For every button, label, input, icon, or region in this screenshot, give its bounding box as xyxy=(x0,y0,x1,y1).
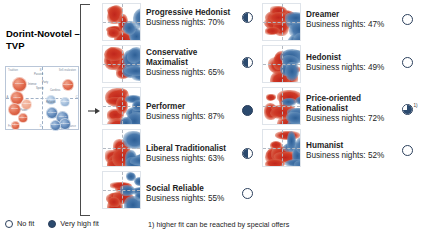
fit-indicator-half[interactable] xyxy=(242,148,253,159)
segment-entry: Social ReliableBusiness nights: 55% xyxy=(146,184,224,204)
segment-business-nights: Business nights: 87% xyxy=(146,112,224,122)
footnote-text: 1) higher fit can be reached by special … xyxy=(148,220,289,229)
segment-business-nights: Business nights: 72% xyxy=(306,114,384,124)
segment-entry: Price-oriented RationalistBusiness night… xyxy=(306,94,384,125)
segment-entry: PerformerBusiness nights: 87% xyxy=(146,102,224,122)
segment-heatmap xyxy=(102,171,141,209)
heatmap-blob-blue xyxy=(295,96,301,105)
segment-heatmap xyxy=(102,129,141,167)
fit-indicator-none[interactable] xyxy=(242,188,253,199)
fit-indicator-half[interactable] xyxy=(242,12,253,23)
heatmap-blob-blue xyxy=(124,196,141,209)
segment-name: Price-oriented Rationalist xyxy=(306,94,376,114)
segment-business-nights: Business nights: 49% xyxy=(306,63,384,73)
segment-name: Humanist xyxy=(306,141,384,151)
segment-heatmap xyxy=(262,129,301,167)
mini-positioning-chart: Tradition B Self-realization A C Frugal … xyxy=(5,66,79,130)
slide-root: Dorint-Novotel – TVP Tradition B Self-re… xyxy=(0,0,425,235)
fit-indicator-none[interactable] xyxy=(402,57,413,68)
fit-indicator-none[interactable] xyxy=(402,145,413,156)
chart-text-marker: Relaxed xyxy=(46,101,56,104)
segment-name: Performer xyxy=(146,102,224,112)
segment-heatmap xyxy=(262,45,301,83)
fit-indicator-full[interactable] xyxy=(242,105,253,116)
segment-heatmap xyxy=(262,3,301,41)
segment-entry: Conservative MaximalistBusiness nights: … xyxy=(146,48,224,79)
axis-label-top-mid: B xyxy=(40,69,42,72)
heatmap-blob-blue xyxy=(133,8,141,28)
chart-text-marker: Power xyxy=(20,109,27,112)
chart-text-marker: Sporty xyxy=(36,87,44,90)
chart-bubble: Modern xyxy=(18,113,28,123)
chart-bubble: Dreamer xyxy=(62,79,74,91)
footnote-marker: 1) xyxy=(414,103,418,108)
chart-text-marker: Passive xyxy=(34,73,43,76)
heatmap-blob-blue xyxy=(123,131,141,149)
segment-business-nights: Business nights: 70% xyxy=(146,18,230,28)
heatmap-axis-horizontal xyxy=(263,64,300,65)
chart-text-marker: Intense xyxy=(28,83,37,86)
segment-entry: HumanistBusiness nights: 52% xyxy=(306,141,384,161)
fit-indicator-three-quarter[interactable] xyxy=(402,104,413,115)
heatmap-blob-red xyxy=(107,5,122,23)
segment-name: Progressive Hedonist xyxy=(146,8,230,18)
axis-label-mid-right: C xyxy=(76,96,78,99)
segment-heatmap xyxy=(102,3,141,41)
axis-label-top-right: Self-realization xyxy=(59,69,76,72)
chart-bubble: Progres xyxy=(60,97,70,107)
legend-label-very-high-fit: Very high fit xyxy=(60,219,99,228)
no-fit-circle-icon xyxy=(5,220,13,228)
heatmap-blob-blue xyxy=(294,160,301,167)
segment-heatmap xyxy=(102,87,141,125)
segment-business-nights: Business nights: 47% xyxy=(306,20,384,30)
legend-item-no-fit: No fit xyxy=(5,219,34,228)
heatmap-axis-horizontal xyxy=(103,22,140,23)
segment-name: Dreamer xyxy=(306,10,384,20)
fit-fill xyxy=(243,13,248,22)
heatmap-blob-red xyxy=(107,28,119,38)
segment-business-nights: Business nights: 55% xyxy=(146,194,224,204)
segment-entry: HedonistBusiness nights: 49% xyxy=(306,53,384,73)
segment-business-nights: Business nights: 63% xyxy=(146,154,226,164)
axis-label-top-left: Tradition xyxy=(8,69,18,72)
heatmap-blob-blue xyxy=(286,112,301,125)
segment-business-nights: Business nights: 52% xyxy=(306,151,384,161)
flow-arrow-icon xyxy=(88,106,100,116)
segment-name: Liberal Traditionalist xyxy=(146,144,226,154)
heatmap-axis-horizontal xyxy=(103,106,140,107)
segment-entry: DreamerBusiness nights: 47% xyxy=(306,10,384,30)
chart-bubble: Conserv xyxy=(12,77,27,92)
very-high-fit-circle-icon xyxy=(48,220,56,228)
heatmap-blob-red xyxy=(108,197,120,207)
chart-bubble: Enterta xyxy=(11,121,20,130)
fit-fill xyxy=(243,58,248,67)
heatmap-blob-red xyxy=(266,94,276,101)
segment-entry: Progressive HedonistBusiness nights: 70% xyxy=(146,8,230,28)
fit-fill xyxy=(243,149,248,158)
legend-label-no-fit: No fit xyxy=(17,219,34,228)
segment-name: Conservative Maximalist xyxy=(146,48,216,68)
chart-bubble: Consump xyxy=(50,120,61,131)
segment-heatmap xyxy=(262,87,301,125)
heatmap-blob-blue xyxy=(127,47,141,63)
chart-text-marker: Party xyxy=(42,81,48,84)
legend-item-very-high-fit: Very high fit xyxy=(48,219,99,228)
segment-name: Hedonist xyxy=(306,53,384,63)
heatmap-axis-horizontal xyxy=(263,22,300,23)
axis-label-bottom-mid: D xyxy=(40,125,42,128)
heatmap-axis-horizontal xyxy=(263,106,300,107)
heatmap-axis-horizontal xyxy=(263,148,300,149)
chart-text-marker: Careless xyxy=(50,89,60,92)
fit-indicator-half[interactable] xyxy=(242,57,253,68)
segment-name: Social Reliable xyxy=(146,184,224,194)
fit-indicator-none[interactable] xyxy=(402,14,413,25)
heatmap-axis-horizontal xyxy=(103,190,140,191)
heatmap-blob-blue xyxy=(281,98,296,106)
segment-business-nights: Business nights: 65% xyxy=(146,68,224,78)
segment-entry: Liberal TraditionalistBusiness nights: 6… xyxy=(146,144,226,164)
heatmap-axis-horizontal xyxy=(103,64,140,65)
heatmap-blob-blue xyxy=(126,172,136,181)
segment-heatmap xyxy=(102,45,141,83)
axis-label-mid-left: A xyxy=(7,96,9,99)
heatmap-blob-blue xyxy=(130,156,141,165)
